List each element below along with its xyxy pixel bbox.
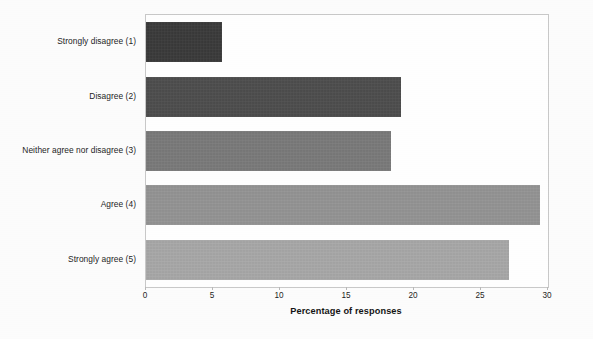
category-label-3: Neither agree nor disagree (3) bbox=[0, 145, 136, 155]
bar-2 bbox=[146, 77, 401, 117]
bar-texture bbox=[146, 77, 401, 117]
bar-texture bbox=[146, 240, 509, 280]
bar-texture bbox=[146, 22, 222, 62]
category-label-5: Strongly agree (5) bbox=[0, 254, 136, 264]
category-axis: Strongly disagree (1)Disagree (2)Neither… bbox=[0, 14, 141, 286]
x-tick-label-6: 30 bbox=[542, 291, 551, 300]
x-tick-mark-3 bbox=[346, 287, 347, 290]
x-tick-mark-6 bbox=[547, 287, 548, 290]
x-tick-label-1: 5 bbox=[210, 291, 215, 300]
category-label-4: Agree (4) bbox=[0, 199, 136, 209]
bar-5 bbox=[146, 240, 509, 280]
x-tick-mark-4 bbox=[413, 287, 414, 290]
x-tick-label-2: 10 bbox=[274, 291, 283, 300]
bar-1 bbox=[146, 22, 222, 62]
chart-title bbox=[0, 0, 593, 8]
bars-container bbox=[146, 15, 548, 287]
x-tick-label-0: 0 bbox=[143, 291, 148, 300]
x-tick-mark-1 bbox=[212, 287, 213, 290]
bar-3 bbox=[146, 131, 391, 171]
category-label-2: Disagree (2) bbox=[0, 91, 136, 101]
x-axis-title: Percentage of responses bbox=[145, 306, 547, 316]
x-tick-mark-2 bbox=[279, 287, 280, 290]
x-tick-label-5: 25 bbox=[475, 291, 484, 300]
bar-4 bbox=[146, 185, 540, 225]
bar-texture bbox=[146, 131, 391, 171]
plot-area bbox=[145, 14, 549, 288]
x-tick-label-4: 20 bbox=[408, 291, 417, 300]
x-tick-mark-0 bbox=[145, 287, 146, 290]
x-tick-mark-5 bbox=[480, 287, 481, 290]
bar-texture bbox=[146, 185, 540, 225]
category-label-1: Strongly disagree (1) bbox=[0, 36, 136, 46]
bar-chart-figure: Strongly disagree (1)Disagree (2)Neither… bbox=[0, 0, 593, 339]
x-tick-label-3: 15 bbox=[341, 291, 350, 300]
